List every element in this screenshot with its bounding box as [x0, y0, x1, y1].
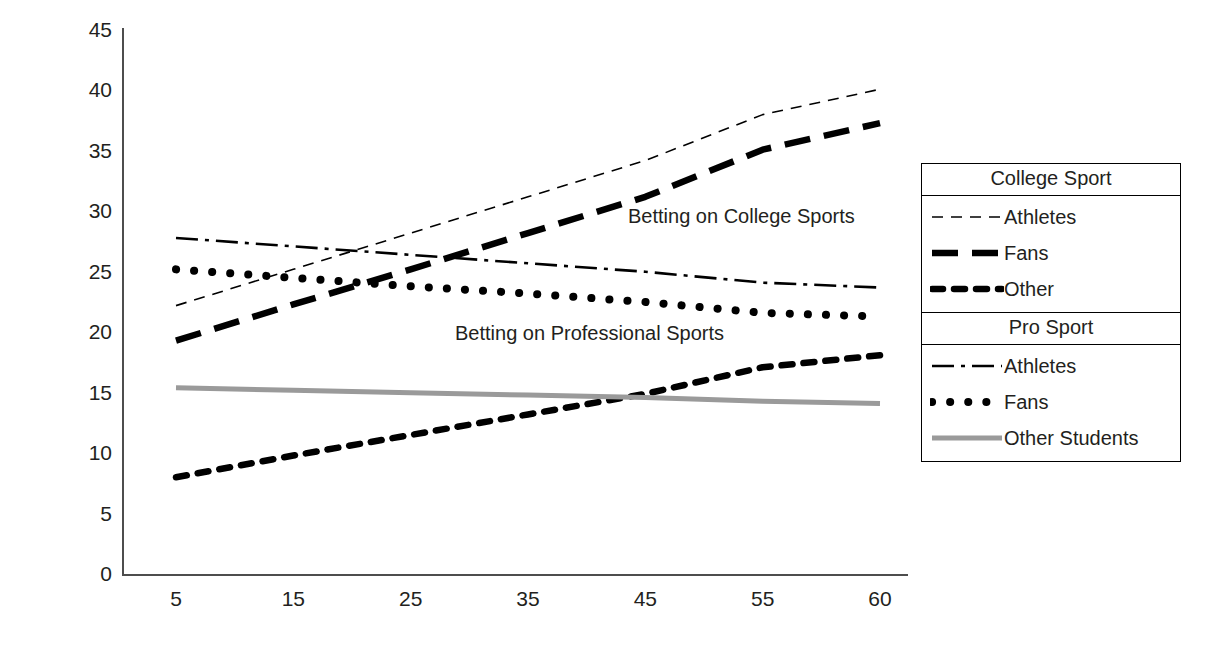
legend-key-thin-dashed-icon: [930, 207, 1004, 227]
annotation-professional-sports: Betting on Professional Sports: [455, 322, 724, 345]
legend-item[interactable]: Athletes: [922, 348, 1180, 384]
x-axis-tick-label: 25: [381, 588, 441, 609]
annotation-college-sports: Betting on College Sports: [628, 205, 855, 228]
x-axis-tick-label: 35: [498, 588, 558, 609]
legend-key-dash-dot-icon: [930, 356, 1004, 376]
legend-group-body: AthletesFansOther Students: [922, 345, 1180, 461]
series-line-gray-solid: [176, 388, 880, 404]
legend-key-gray-solid-icon: [930, 428, 1004, 448]
legend-key-bold-dotted-icon: [930, 279, 1004, 299]
series-line-thin-dashed: [176, 89, 880, 305]
legend-item[interactable]: Fans: [922, 235, 1180, 271]
x-axis-tick-label: 60: [850, 588, 910, 609]
legend-item-label: Other: [1004, 279, 1054, 299]
chart-legend: College SportAthletesFansOtherPro SportA…: [921, 163, 1181, 462]
series-line-bold-dotted: [176, 355, 880, 477]
x-axis-tick-label: 45: [615, 588, 675, 609]
legend-item[interactable]: Athletes: [922, 199, 1180, 235]
series-line-bold-dashed: [176, 123, 880, 341]
legend-item-label: Fans: [1004, 392, 1048, 412]
legend-group-header: College Sport: [922, 164, 1180, 196]
legend-item-label: Athletes: [1004, 356, 1076, 376]
legend-key-round-dotted-icon: [930, 392, 1004, 412]
legend-item-label: Fans: [1004, 243, 1048, 263]
x-axis-tick-label: 5: [146, 588, 206, 609]
legend-item-label: Athletes: [1004, 207, 1076, 227]
legend-item[interactable]: Other Students: [922, 420, 1180, 456]
legend-item[interactable]: Fans: [922, 384, 1180, 420]
x-axis-tick-label: 55: [733, 588, 793, 609]
legend-group-body: AthletesFansOther: [922, 196, 1180, 312]
series-line-round-dotted: [176, 269, 880, 316]
x-axis-tick-label: 15: [263, 588, 323, 609]
series-layer: [176, 89, 880, 477]
legend-item[interactable]: Other: [922, 271, 1180, 307]
x-axis-tick-labels: 5152535455560: [0, 588, 1217, 628]
legend-group-header: Pro Sport: [922, 312, 1180, 345]
legend-item-label: Other Students: [1004, 428, 1139, 448]
chart-root: Predicted Prevalence of Gambling 0510152…: [0, 0, 1217, 650]
legend-key-bold-dashed-icon: [930, 243, 1004, 263]
